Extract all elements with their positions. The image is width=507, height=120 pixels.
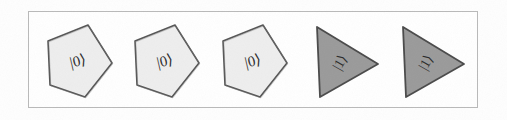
triangle-shape-icon [300, 11, 392, 108]
shape-item-2[interactable]: |0⟩ [123, 11, 215, 108]
shape-item-5[interactable]: |1⟩ [386, 11, 478, 108]
pentagon-shape-icon [211, 11, 303, 108]
figure-root: |0⟩ |0⟩ |0⟩ |1⟩ [0, 0, 507, 120]
pentagon-shape-icon [36, 11, 128, 108]
shape-item-4[interactable]: |1⟩ [300, 11, 392, 108]
shape-item-3[interactable]: |0⟩ [211, 11, 303, 108]
triangle-shape-icon [386, 11, 478, 108]
shape-item-1[interactable]: |0⟩ [36, 11, 128, 108]
shape-row: |0⟩ |0⟩ |0⟩ |1⟩ [28, 11, 478, 108]
pentagon-shape-icon [123, 11, 215, 108]
